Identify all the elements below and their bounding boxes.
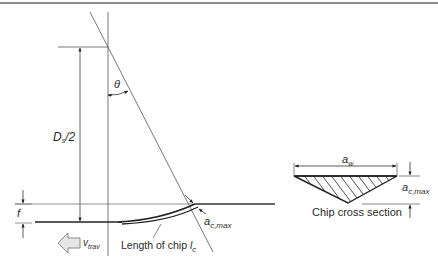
cross-section-height-label: ac,max <box>402 182 429 196</box>
cross-section-width-label: aw <box>342 154 353 167</box>
chip-length-leader <box>153 224 161 238</box>
chip-length-label: Length of chip lc <box>121 240 196 254</box>
cross-section-width-sub: w <box>348 160 353 167</box>
traverse-direction-arrow <box>58 233 80 253</box>
chip-length-text: Length of chip <box>121 239 190 251</box>
chip-thickness-arrow <box>199 209 206 214</box>
cross-section-caption: Chip cross section <box>312 207 402 218</box>
header-bar <box>0 2 438 4</box>
chip-thickness-sub: c,max <box>210 221 231 230</box>
chip-length-sub: c <box>192 245 196 254</box>
theta-arc <box>108 91 128 95</box>
cross-section-height-sub: c,max <box>408 187 429 196</box>
feed-label: f <box>17 208 20 219</box>
theta-label: θ <box>114 79 120 90</box>
wheel-radius-tail: /2 <box>65 130 75 144</box>
chip-cross-section-triangle <box>294 176 397 203</box>
chip-thickness-label: ac,max <box>204 216 231 230</box>
wheel-radius-label: Ds/2 <box>53 131 75 144</box>
traverse-speed-label: vtrav <box>83 238 100 250</box>
wheel-radius-main: D <box>53 130 62 144</box>
contact-radius-line <box>90 12 213 252</box>
traverse-speed-sub: trav <box>88 243 100 250</box>
diagram-canvas: θ Ds/2 f ac,max vtrav Length of chip lc … <box>0 0 438 267</box>
